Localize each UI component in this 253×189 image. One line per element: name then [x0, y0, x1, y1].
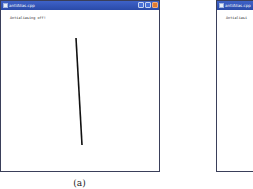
minimize-button[interactable] — [138, 2, 144, 8]
maximize-button[interactable] — [145, 2, 151, 8]
canvas — [0, 0, 160, 172]
titlebar[interactable]: antiAlias.cpp — [217, 1, 253, 10]
window-title: antiAlias.cpp — [225, 1, 251, 10]
window-antialias-off: antiAlias.cpp Antialiasing off! — [0, 0, 160, 172]
status-text: Antialiasi — [226, 16, 247, 20]
drawn-line — [76, 38, 82, 145]
app-icon — [3, 3, 8, 8]
window-antialias-on: antiAlias.cpp Antialiasi — [216, 0, 253, 172]
window-title: antiAlias.cpp — [9, 1, 35, 10]
app-icon — [219, 3, 224, 8]
status-text: Antialiasing off! — [10, 16, 46, 20]
titlebar[interactable]: antiAlias.cpp — [1, 1, 159, 10]
close-button[interactable] — [152, 2, 158, 8]
figure-caption: (a) — [0, 178, 159, 188]
window-controls — [138, 2, 158, 8]
